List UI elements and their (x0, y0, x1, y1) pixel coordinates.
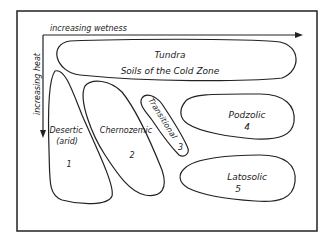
chernozemic-label: Chernozemic (100, 126, 153, 135)
heat-axis-arrowhead-icon (40, 130, 46, 138)
wetness-axis-label: increasing wetness (50, 24, 127, 33)
tundra-label: Tundra (155, 50, 186, 60)
chernozemic-number: 2 (129, 151, 134, 160)
heat-axis-label: increasing heat (33, 52, 42, 115)
desertic-number: 1 (66, 160, 71, 169)
podzolic-number: 4 (244, 122, 250, 132)
podzolic-label: Podzolic (229, 110, 266, 120)
wetness-axis-arrowhead-icon (295, 32, 303, 38)
desertic-label: Desertic (49, 126, 83, 135)
transitional-number: 3 (178, 143, 183, 152)
soil-zone-diagram: increasing wetness increasing heat Tundr… (0, 0, 334, 245)
latosolic-label: Latosolic (227, 172, 267, 182)
desertic-qualifier: (arid) (56, 137, 78, 146)
tundra-subtitle: Soils of the Cold Zone (121, 66, 220, 76)
latosolic-number: 5 (235, 184, 241, 194)
